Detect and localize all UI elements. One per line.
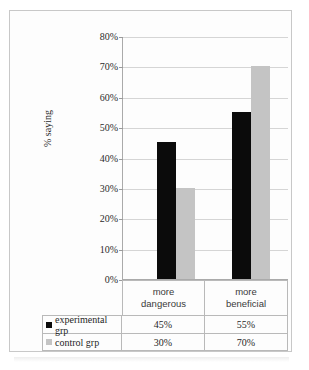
gray-square-icon [46,339,52,345]
value-experimental-more-beneficial: 55% [205,316,288,333]
legend-label-experimental: experimental grp [55,314,121,336]
value-control-more-beneficial: 70% [205,334,288,350]
y-tick-label: 30% [74,184,118,194]
y-tick-label: 50% [74,123,118,133]
y-tick-label: 40% [74,154,118,164]
bar-experimental-more-beneficial [232,112,251,279]
y-axis-tick-labels: 80% 70% 60% 50% 40% 30% 20% 10% 0% [70,37,118,280]
data-table: more dangerous more beneficial experimen… [42,280,288,352]
value-control-more-dangerous: 30% [122,334,205,350]
category-header-more-beneficial: more beneficial [205,280,288,315]
y-tickmark [119,219,123,220]
legend-label-control: control grp [55,337,99,348]
y-tickmark [119,250,123,251]
y-tickmark [119,37,123,38]
bar-experimental-more-dangerous [157,142,176,279]
category-header-line2: beneficial [226,298,266,310]
y-tick-label: 60% [74,93,118,103]
y-tickmark [119,67,123,68]
legend-entry-experimental: experimental grp [42,316,122,333]
plot-area [122,37,288,280]
table-row-control: control grp 30% 70% [42,333,288,351]
black-square-icon [46,322,52,328]
category-header-spacer [42,280,122,315]
value-experimental-more-dangerous: 45% [122,316,205,333]
scan-artifact [14,357,289,362]
y-tick-label: 70% [74,62,118,72]
category-header-line1: more [153,286,175,298]
y-axis-title: % saying [42,84,53,174]
figure-frame: 80% 70% 60% 50% 40% 30% 20% 10% 0% % say… [9,10,292,352]
table-row-experimental: experimental grp 45% 55% [42,315,288,333]
y-tick-label: 80% [74,32,118,42]
y-tick-label: 10% [74,245,118,255]
bar-control-more-dangerous [176,188,195,279]
gridline [123,37,288,38]
legend-entry-control: control grp [42,334,122,350]
category-header-more-dangerous: more dangerous [122,280,205,315]
bar-control-more-beneficial [251,66,270,279]
table-category-header-row: more dangerous more beneficial [42,280,288,315]
y-tickmark [119,189,123,190]
y-tickmark [119,98,123,99]
y-tickmark [119,128,123,129]
y-tickmark [119,159,123,160]
category-header-line1: more [235,286,257,298]
category-header-line2: dangerous [141,298,186,310]
y-tick-label: 20% [74,214,118,224]
